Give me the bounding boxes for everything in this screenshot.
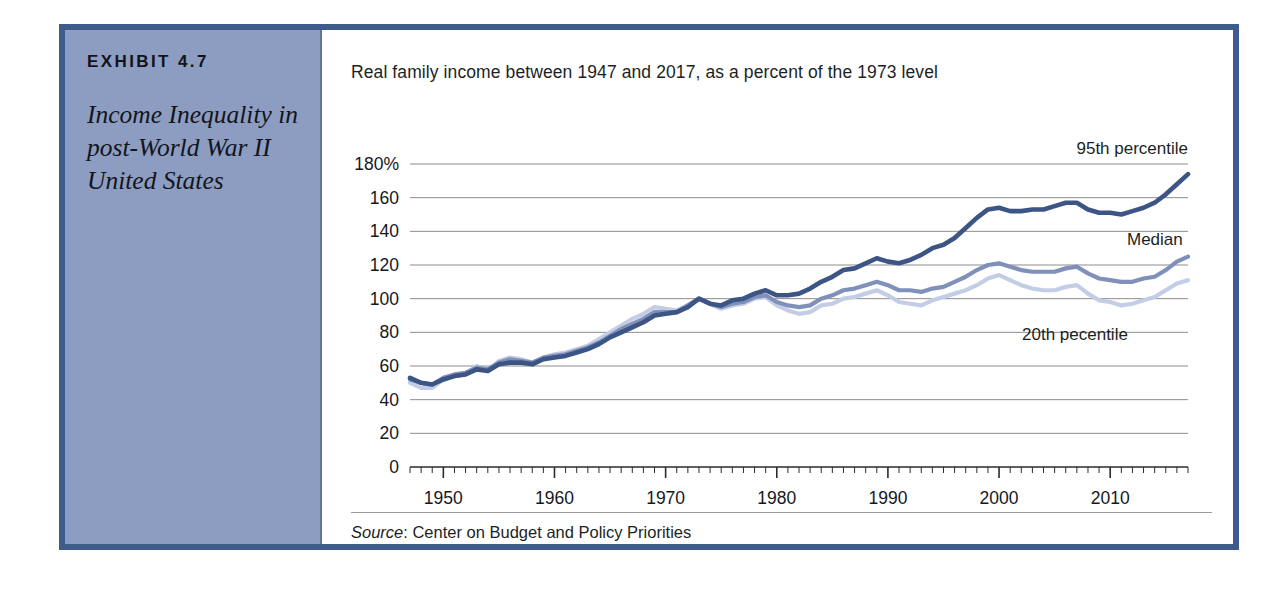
series-annotations: 95th percentileMedian20th pecentile	[1022, 139, 1188, 344]
x-tick-label: 1970	[646, 488, 685, 506]
x-tick-label: 1950	[424, 488, 463, 506]
y-tick-label: 160	[370, 188, 399, 208]
exhibit-panel: EXHIBIT 4.7 Income Inequality in post-Wo…	[59, 24, 1239, 550]
y-tick-label: 40	[380, 390, 400, 410]
y-tick-label: 100	[370, 289, 399, 309]
y-tick-label: 140	[370, 221, 399, 241]
series-annotation-p20: 20th pecentile	[1022, 325, 1128, 344]
source-word: Source	[351, 523, 403, 541]
x-tick-label: 1980	[757, 488, 796, 506]
screenshot-root: EXHIBIT 4.7 Income Inequality in post-Wo…	[0, 0, 1288, 599]
y-tick-label: 0	[389, 457, 399, 477]
y-tick-labels: 020406080100120140160180%	[354, 154, 399, 477]
series-annotation-p95: 95th percentile	[1076, 139, 1188, 158]
exhibit-sidebar: EXHIBIT 4.7 Income Inequality in post-Wo…	[65, 30, 322, 544]
x-axis	[410, 467, 1188, 478]
source-text: : Center on Budget and Policy Priorities	[403, 523, 691, 541]
x-tick-label: 2010	[1091, 488, 1130, 506]
exhibit-title: Income Inequality in post-World War II U…	[87, 98, 300, 197]
line-chart: 020406080100120140160180% 19501960197019…	[322, 30, 1239, 506]
x-tick-label: 1990	[868, 488, 907, 506]
y-tick-label: 180%	[354, 154, 399, 174]
chart-svg: 020406080100120140160180% 19501960197019…	[322, 30, 1239, 506]
series-annotation-median: Median	[1127, 230, 1183, 249]
series-line-p95	[410, 174, 1188, 384]
x-tick-label: 1960	[535, 488, 574, 506]
x-tick-label: 2000	[980, 488, 1019, 506]
source-divider	[351, 512, 1212, 513]
y-tick-label: 20	[380, 423, 400, 443]
exhibit-body: Real family income between 1947 and 2017…	[322, 30, 1233, 544]
series-lines	[410, 174, 1188, 388]
source-line: Source: Center on Budget and Policy Prio…	[351, 523, 691, 542]
y-tick-label: 60	[380, 356, 400, 376]
x-tick-labels: 1950196019701980199020002010	[424, 488, 1130, 506]
y-tick-label: 120	[370, 255, 399, 275]
exhibit-number-label: EXHIBIT 4.7	[87, 52, 300, 72]
y-tick-label: 80	[380, 322, 400, 342]
